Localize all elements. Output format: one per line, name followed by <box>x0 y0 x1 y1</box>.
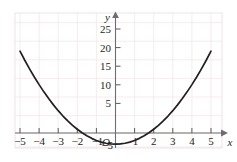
x-tick-label-neg3: −3 <box>52 135 64 147</box>
x-tick-label-4: 4 <box>189 135 195 147</box>
x-tick-label-neg2: −2 <box>71 135 83 147</box>
x-tick-label-2: 2 <box>151 135 157 147</box>
x-axis-label: x <box>227 136 233 148</box>
x-tick-label-3: 3 <box>170 135 176 147</box>
parabola-plot: 25 20 15 10 5 −5 −5 −4 −3 −2 −1 1 2 3 4 … <box>0 0 237 162</box>
x-tick-label-neg5: −5 <box>14 135 26 147</box>
graph-figure: 25 20 15 10 5 −5 −5 −4 −3 −2 −1 1 2 3 4 … <box>0 0 237 162</box>
x-tick-label-neg4: −4 <box>33 135 45 147</box>
y-tick-label-15: 15 <box>100 60 112 72</box>
x-tick-label-5: 5 <box>208 135 214 147</box>
y-tick-label-5: 5 <box>106 97 112 109</box>
y-tick-label-20: 20 <box>100 42 112 54</box>
y-tick-label-10: 10 <box>100 79 112 91</box>
y-tick-label-25: 25 <box>100 23 112 35</box>
y-axis-label: y <box>104 11 110 23</box>
